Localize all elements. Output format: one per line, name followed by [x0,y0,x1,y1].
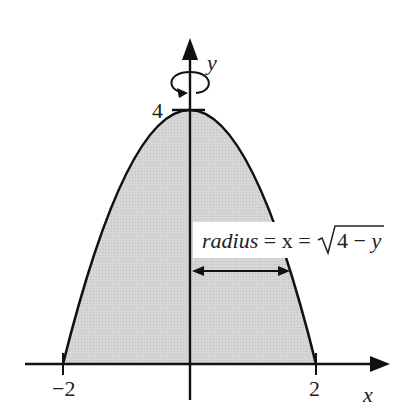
sqrt-content: 4 − y [337,228,381,253]
y-axis-arrow-icon [182,38,198,60]
radius-formula: radius = x = [202,228,311,253]
radius-eq: = x = [258,228,310,253]
diagram-canvas: y x 4 −2 2 radius = x = 4 − y [0,0,412,413]
x-axis-arrow-icon [370,356,390,372]
tick-label-4: 4 [152,98,163,123]
tick-label-neg2: −2 [52,376,75,401]
rotation-arrowhead-icon [177,88,188,98]
y-axis-label: y [205,50,217,75]
tick-label-2: 2 [309,376,320,401]
radius-word: radius [202,228,258,253]
x-axis-label: x [362,382,373,407]
